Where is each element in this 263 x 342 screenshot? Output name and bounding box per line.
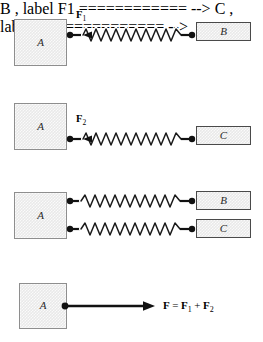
spring-a-to-b — [66, 24, 199, 46]
block-b: B — [196, 191, 251, 210]
block-label-a: A — [15, 37, 66, 48]
equation-resultant: F — [163, 299, 170, 311]
equation-term1: F — [181, 299, 188, 311]
block-label-b: B — [197, 195, 250, 206]
block-a: A — [14, 19, 67, 66]
force-superposition-figure: B , label F1 ============ --> A F1 B C ,… — [0, 0, 263, 342]
resultant-force-equation: F=F1+F2 — [163, 300, 214, 314]
equation-equals: = — [170, 299, 181, 311]
block-a: A — [14, 103, 67, 150]
block-label-a: A — [15, 121, 66, 132]
block-a: A — [14, 192, 67, 239]
spring-a-to-b — [66, 190, 199, 212]
spring-a-to-c — [66, 128, 199, 150]
equation-plus: + — [192, 299, 203, 311]
block-label-c: C — [197, 130, 250, 141]
block-label-a: A — [15, 210, 66, 221]
panel-2: A F2 C — [0, 90, 263, 175]
force-subscript: 2 — [82, 118, 86, 127]
panel-4: A F=F1+F2 — [0, 272, 263, 342]
resultant-force-arrow — [60, 298, 160, 314]
block-c: C — [196, 219, 251, 238]
force-label-f1: F1 — [76, 10, 86, 23]
spring-a-to-c — [66, 218, 199, 240]
panel-1: A F1 B — [0, 0, 263, 85]
block-label-c: C — [197, 223, 250, 234]
block-label-b: B — [197, 26, 250, 37]
panel-3: A B C — [0, 180, 263, 265]
equation-term2-subscript: 2 — [210, 305, 214, 314]
block-c: C — [196, 126, 251, 145]
force-subscript: 1 — [82, 14, 86, 23]
equation-term2: F — [203, 299, 210, 311]
block-b: B — [196, 22, 251, 41]
force-label-f2: F2 — [76, 114, 86, 127]
